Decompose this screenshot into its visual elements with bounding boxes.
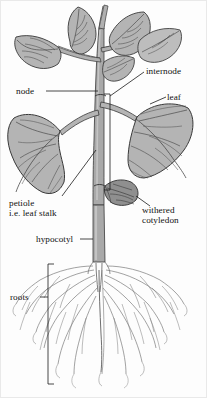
leaf-upper-left [15,36,61,69]
label-internode: internode [146,66,181,76]
leaf-right-large [128,104,193,178]
label-node: node [16,86,34,96]
withered-cotyledon [104,180,138,205]
leader-leaf [150,97,166,104]
label-petiole: petiole i.e. leaf stalk [9,198,57,218]
label-petiole-line1: petiole [9,198,57,208]
label-petiole-line2: i.e. leaf stalk [9,208,57,218]
label-roots: roots [10,292,29,302]
label-leaf: leaf [167,92,181,102]
root-system [13,262,187,388]
petiole-left-leaf [60,110,99,135]
label-hypocotyl: hypocotyl [36,234,73,244]
leaf-left-large [8,114,65,193]
leader-petiole [62,150,96,196]
label-withered-line2: cotyledon [142,215,179,225]
illustration-plate: node internode leaf petiole i.e. leaf st… [0,0,207,398]
plant-anatomy-figure: node internode leaf petiole i.e. leaf st… [0,0,207,414]
label-withered-cotyledon: withered cotyledon [142,205,179,225]
label-withered-line1: withered [142,205,179,215]
leaflet-mid-right [103,56,135,81]
leaf-upper-middle [68,7,96,54]
hypocotyl-stem [93,205,105,262]
